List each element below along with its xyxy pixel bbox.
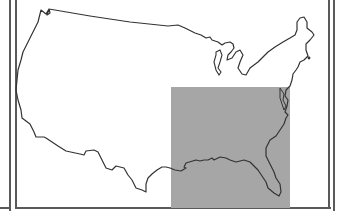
cape-cod-marker: [308, 57, 311, 60]
highlighted-region[interactable]: [171, 87, 290, 208]
map-canvas: [0, 0, 338, 211]
lake-michigan-outline: [214, 50, 222, 75]
